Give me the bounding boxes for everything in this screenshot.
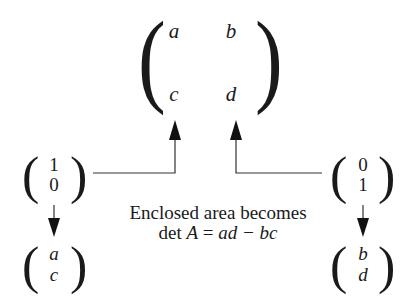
caption-line-2: det A = ad − bc: [118, 223, 318, 242]
left-input-top: 1: [44, 155, 64, 174]
matrix-entry-c: c: [164, 84, 184, 105]
right-input-left-paren: (: [330, 150, 347, 202]
right-output-right-paren: ): [378, 240, 395, 292]
right-input-right-paren: ): [378, 150, 395, 202]
left-down-arrowhead-icon: [48, 218, 60, 237]
left-up-arrowhead-icon: [169, 120, 181, 140]
matrix-A: ( ) a b c d: [0, 0, 419, 115]
caption-equals: =: [198, 222, 218, 243]
matrix-entry-b: b: [221, 21, 241, 42]
right-output-left-paren: (: [330, 240, 347, 292]
left-output-vector: ( ) a c: [0, 240, 100, 290]
left-input-vector: ( ) 1 0: [0, 150, 100, 200]
left-output-left-paren: (: [22, 240, 39, 292]
left-input-left-paren: (: [22, 150, 39, 202]
left-output-bottom: c: [44, 265, 64, 284]
right-output-bottom: d: [353, 265, 373, 284]
left-output-top: a: [44, 244, 64, 263]
caption-det: det: [158, 222, 186, 243]
right-input-top: 0: [353, 155, 373, 174]
matrix-left-paren: (: [138, 6, 166, 110]
caption-matrix-var: A: [186, 222, 198, 243]
matrix-entry-a: a: [164, 21, 184, 42]
right-input-bottom: 1: [353, 175, 373, 194]
right-output-top: b: [353, 244, 373, 263]
left-input-right-paren: ): [70, 150, 87, 202]
right-up-arrowhead-icon: [230, 120, 242, 140]
right-down-arrowhead-icon: [357, 218, 369, 237]
left-connector-line: [93, 135, 175, 173]
matrix-entry-d: d: [221, 84, 241, 105]
left-output-right-paren: ): [70, 240, 87, 292]
right-output-vector: ( ) b d: [310, 240, 410, 290]
right-input-vector: ( ) 0 1: [310, 150, 410, 200]
left-input-bottom: 0: [44, 175, 64, 194]
caption-formula: ad − bc: [218, 222, 277, 243]
caption-line-1: Enclosed area becomes: [118, 203, 318, 222]
matrix-right-paren: ): [255, 6, 283, 110]
